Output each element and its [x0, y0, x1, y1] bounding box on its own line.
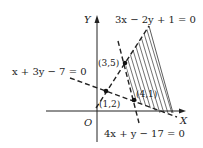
point-label-1-2: (1,2)	[99, 99, 120, 109]
equation-line1: 3x − 2y + 1 = 0	[115, 14, 196, 25]
equation-line3: 4x + y − 17 = 0	[104, 128, 185, 139]
equation-line2: x + 3y − 7 = 0	[12, 66, 87, 77]
point-3-5	[123, 61, 128, 66]
region-right-edge	[149, 26, 173, 113]
point-label-4-1: (4,1)	[136, 89, 157, 99]
point-label-3-5: (3,5)	[98, 58, 119, 68]
origin-label: O	[84, 117, 92, 128]
x-axis-arrow-icon	[179, 109, 186, 114]
y-axis-label: Y	[84, 14, 92, 25]
y-axis-arrow-icon	[95, 15, 100, 23]
point-1-2	[104, 89, 109, 94]
x-axis-label: X	[179, 115, 188, 126]
shaded-region	[112, 20, 178, 120]
diagram: Y X O 3x − 2y + 1 = 0 x + 3y − 7 = 0 4x …	[0, 0, 203, 148]
